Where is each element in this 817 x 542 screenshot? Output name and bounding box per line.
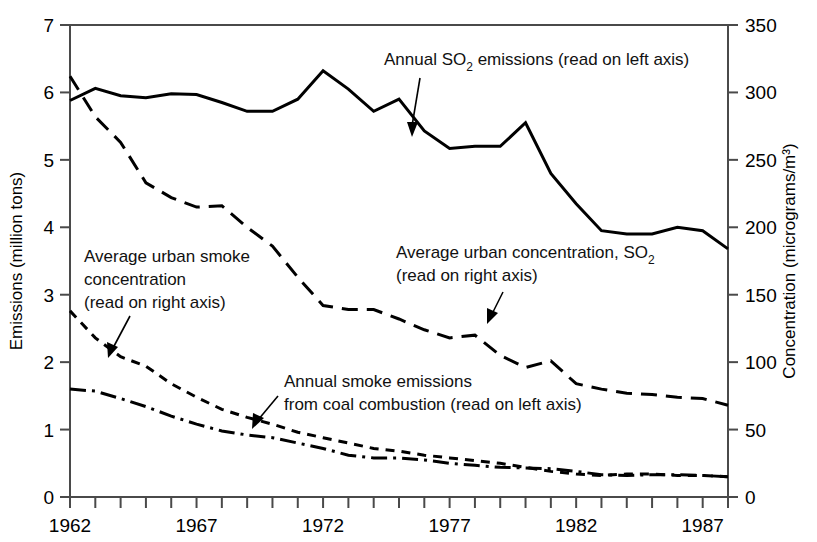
annot-so2-part2: emissions (read on left axis) — [473, 50, 689, 69]
annotation-smoke-conc-line2: concentration — [84, 270, 186, 289]
annot-so2conc-part1: Average urban concentration, SO — [396, 243, 648, 262]
right-tick-label: 250 — [745, 150, 777, 171]
right-tick-label: 200 — [745, 217, 777, 238]
x-tick-label: 1967 — [175, 515, 217, 536]
annotation-smoke-emis-line1: Annual smoke emissions — [284, 372, 472, 391]
annotation-smoke-emis-line2: from coal combustion (read on left axis) — [284, 395, 582, 414]
left-tick-label: 6 — [43, 82, 54, 103]
right-tick-label: 350 — [745, 15, 777, 36]
x-tick-label: 1982 — [555, 515, 597, 536]
left-tick-label: 3 — [43, 285, 54, 306]
x-tick-label: 1977 — [428, 515, 470, 536]
left-tick-label: 7 — [43, 15, 54, 36]
right-tick-label: 50 — [745, 420, 766, 441]
annotation-smoke-conc-line3: (read on right axis) — [84, 293, 226, 312]
right-tick-label: 0 — [745, 487, 756, 508]
annot-so2-part1: Annual SO — [384, 50, 466, 69]
left-axis-title: Emissions (million tons) — [7, 172, 26, 351]
left-tick-label: 5 — [43, 150, 54, 171]
right-axis-title: Concentration (micrograms/m³) — [780, 143, 799, 378]
annot-so2conc-subscript: 2 — [648, 253, 655, 267]
x-tick-label: 1987 — [682, 515, 724, 536]
chart-canvas: 01234567 050100150200250300350 196219671… — [0, 0, 817, 542]
left-tick-label: 4 — [43, 217, 54, 238]
emissions-concentration-chart: 01234567 050100150200250300350 196219671… — [0, 0, 817, 542]
x-tick-label: 1972 — [302, 515, 344, 536]
left-tick-label: 0 — [43, 487, 54, 508]
annotation-so2-conc-line2: (read on right axis) — [396, 266, 538, 285]
right-tick-label: 300 — [745, 82, 777, 103]
left-tick-label: 1 — [43, 420, 54, 441]
right-tick-label: 100 — [745, 352, 777, 373]
annotation-smoke-conc-line1: Average urban smoke — [84, 247, 250, 266]
x-tick-label: 1962 — [49, 515, 91, 536]
right-tick-label: 150 — [745, 285, 777, 306]
left-tick-label: 2 — [43, 352, 54, 373]
